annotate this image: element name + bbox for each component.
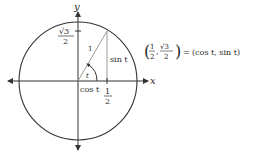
sin-label: sin t [110,55,128,64]
formula-x-denominator: 2 [150,53,154,61]
formula-y-denominator: 2 [164,53,168,61]
y-tick-numerator: √3 [59,27,69,36]
formula-rhs: (cos t, sin t) [192,48,240,57]
formula-close-paren: ) [175,42,181,61]
x-axis-label: x [150,75,156,86]
angle-arc [88,65,97,82]
y-tick-denominator: 2 [63,37,68,46]
formula-equals: = [183,48,190,57]
formula-comma: , [156,47,159,56]
y-axis-label: y [73,1,80,12]
radius-label: 1 [88,45,92,53]
x-tick-denominator: 2 [105,97,110,106]
unit-circle-diagram: y x √3 2 1 2 1 sin t t cos t ( 1 2 , √3 … [0,0,254,155]
cos-label: cos t [80,85,100,94]
angle-label: t [86,72,89,80]
formula-x-numerator: 1 [150,43,154,51]
x-tick-numerator: 1 [105,87,110,96]
formula-y-numerator: √3 [160,43,169,51]
radius-line [78,31,107,81]
